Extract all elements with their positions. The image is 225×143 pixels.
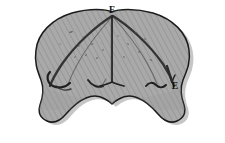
label-f: F xyxy=(109,5,115,15)
label-e: E xyxy=(172,81,178,91)
central-stem xyxy=(111,16,112,82)
anatomical-figure: F E xyxy=(0,0,225,143)
figure-container: F E xyxy=(0,0,225,143)
